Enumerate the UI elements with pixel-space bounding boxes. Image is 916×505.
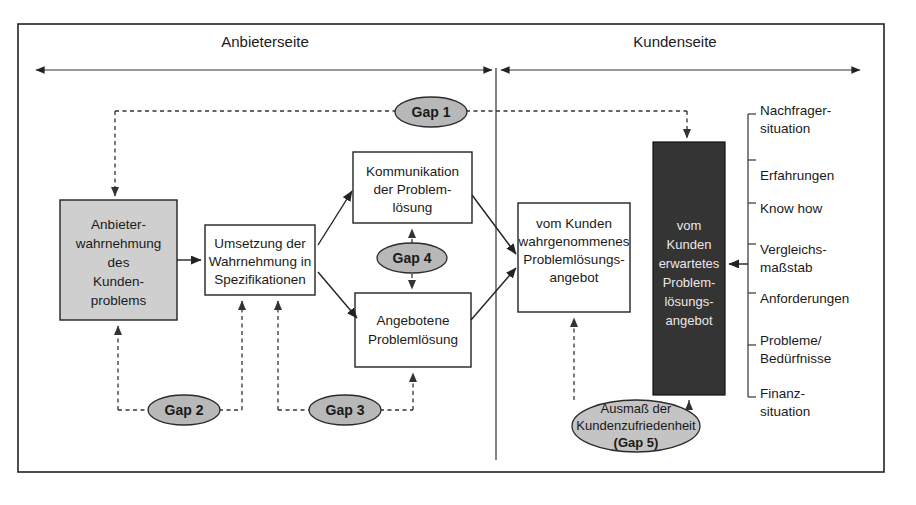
- influence-know-how: Know how: [760, 201, 823, 216]
- influences-brace: [729, 114, 756, 397]
- influence-probleme-line1: Probleme/: [760, 333, 822, 348]
- svg-text:Problemlösung: Problemlösung: [368, 332, 458, 347]
- influence-list: Nachfrager- situation Erfahrungen Know h…: [760, 103, 849, 419]
- svg-text:Anbieter-: Anbieter-: [91, 217, 146, 232]
- gap-2-label: Gap 2: [165, 402, 204, 418]
- svg-text:Kundenzufriedenheit: Kundenzufriedenheit: [576, 418, 696, 433]
- svg-text:vom Kunden: vom Kunden: [536, 216, 612, 231]
- svg-text:wahrgenommenes: wahrgenommenes: [517, 234, 629, 249]
- box-angebotene-problemloesung[interactable]: [355, 293, 471, 367]
- svg-text:lösungs-: lösungs-: [664, 294, 713, 309]
- svg-text:der Problem-: der Problem-: [373, 182, 451, 197]
- gap-1-label: Gap 1: [412, 104, 451, 120]
- arrow-angebotene-to-wahrgenommenes: [471, 268, 516, 320]
- arrow-kommunikation-to-wahrgenommenes: [472, 195, 516, 254]
- svg-text:Kommunikation: Kommunikation: [366, 164, 459, 179]
- svg-text:Angebotene: Angebotene: [377, 313, 450, 328]
- influence-nachfragersituation-line2: situation: [760, 121, 810, 136]
- influence-erfahrungen: Erfahrungen: [760, 168, 834, 183]
- diagram-canvas: Anbieterseite Kundenseite Anbieter- wahr…: [0, 0, 916, 505]
- svg-text:Problem-: Problem-: [663, 275, 716, 290]
- box-umsetzung-label: Umsetzung der Wahrnehmung in Spezifikati…: [209, 236, 311, 287]
- influence-probleme-line2: Bedürfnisse: [760, 351, 831, 366]
- svg-text:Kunden: Kunden: [667, 237, 712, 252]
- svg-text:Kunden-: Kunden-: [93, 274, 144, 289]
- svg-text:angebot: angebot: [550, 270, 599, 285]
- svg-text:Wahrnehmung in: Wahrnehmung in: [209, 254, 311, 269]
- influence-vergleichsmassstab-line1: Vergleichs-: [760, 242, 827, 257]
- svg-text:lösung: lösung: [393, 200, 433, 215]
- influence-finanzsituation-line2: situation: [760, 404, 810, 419]
- svg-text:Ausmaß der: Ausmaß der: [601, 401, 672, 416]
- influence-nachfragersituation-line1: Nachfrager-: [760, 103, 831, 118]
- svg-text:Spezifikationen: Spezifikationen: [214, 272, 306, 287]
- influence-anforderungen: Anforderungen: [760, 291, 849, 306]
- svg-text:des: des: [108, 255, 130, 270]
- svg-text:vom: vom: [677, 218, 702, 233]
- influence-finanzsituation-line1: Finanz-: [760, 386, 805, 401]
- svg-text:(Gap 5): (Gap 5): [614, 435, 659, 450]
- gap-3-label: Gap 3: [326, 402, 365, 418]
- svg-text:Umsetzung der: Umsetzung der: [214, 236, 306, 251]
- gap-model-diagram: Anbieterseite Kundenseite Anbieter- wahr…: [0, 0, 916, 505]
- svg-text:angebot: angebot: [666, 313, 713, 328]
- gap-4-label: Gap 4: [393, 250, 432, 266]
- influence-vergleichsmassstab-line2: maßstab: [760, 260, 813, 275]
- arrow-umsetzung-to-angebotene: [318, 272, 357, 318]
- header-label-kundenseite: Kundenseite: [633, 33, 716, 50]
- svg-text:problems: problems: [91, 293, 147, 308]
- header-label-anbieterseite: Anbieterseite: [221, 33, 309, 50]
- arrow-umsetzung-to-kommunikation: [318, 191, 352, 245]
- svg-text:erwartetes: erwartetes: [659, 256, 720, 271]
- svg-text:Problemlösungs-: Problemlösungs-: [523, 252, 624, 267]
- svg-text:wahrnehmung: wahrnehmung: [75, 236, 162, 251]
